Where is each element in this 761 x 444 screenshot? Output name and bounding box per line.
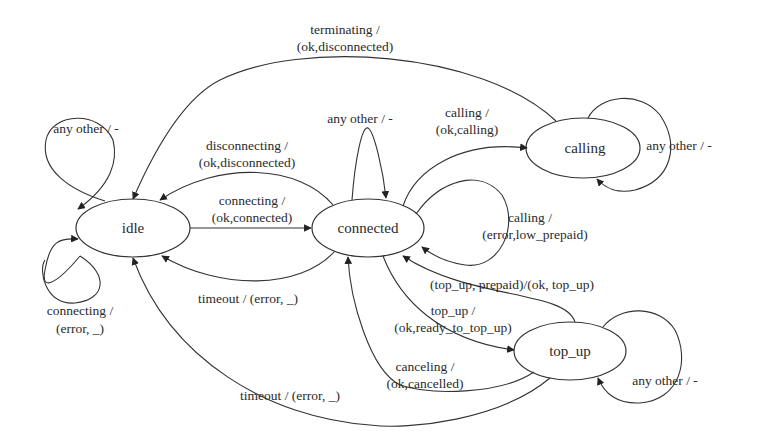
transition-label: connecting / xyxy=(47,303,114,318)
transition-connected-low-prepaid: calling / (error,low_prepaid) xyxy=(416,180,588,265)
transition-connected-to-calling: calling / (ok,calling) xyxy=(403,105,527,206)
state-machine-diagram: idle connected calling top_up any other … xyxy=(0,0,761,444)
state-label: calling xyxy=(565,140,606,156)
state-calling: calling xyxy=(526,118,640,178)
transition-idle-to-connected: connecting / (ok,connected) xyxy=(190,193,311,228)
transition-connected-to-top-up: top_up / (ok,ready_to_top_up) xyxy=(383,256,514,350)
transition-label: any other / - xyxy=(327,111,393,126)
transition-label: any other / - xyxy=(53,121,119,136)
transition-label: any other / - xyxy=(646,138,712,153)
state-top-up: top_up xyxy=(514,322,626,380)
transition-idle-connecting-error: connecting / (error, _) xyxy=(43,239,114,336)
transition-connected-timeout: timeout / (error, _) xyxy=(162,251,335,306)
transition-label: connecting / xyxy=(219,193,286,208)
transition-label: (top_up, prepaid)/(ok, top_up) xyxy=(430,277,594,292)
transition-label: top_up / xyxy=(431,303,476,318)
transition-label: (ok,ready_to_top_up) xyxy=(394,320,511,335)
transition-label: (ok,calling) xyxy=(436,122,499,137)
transition-label: timeout / (error, _) xyxy=(198,291,298,306)
state-label: idle xyxy=(122,220,145,236)
transition-label: any other / - xyxy=(632,373,698,388)
state-label: connected xyxy=(338,220,399,236)
transition-label: canceling / xyxy=(396,359,455,374)
transition-idle-any-other: any other / - xyxy=(45,118,119,209)
transition-label: (error, _) xyxy=(56,321,104,336)
transition-label: terminating / xyxy=(310,22,380,37)
transition-label: (ok,cancelled) xyxy=(387,376,464,391)
transition-label: (ok,disconnected) xyxy=(199,155,295,170)
transition-label: disconnecting / xyxy=(206,138,288,153)
transition-label: (ok,disconnected) xyxy=(297,39,393,54)
state-connected: connected xyxy=(312,199,424,257)
transition-connected-any-other: any other / - xyxy=(327,111,393,200)
state-idle: idle xyxy=(76,199,190,257)
transition-label: calling / xyxy=(508,210,552,225)
transition-label: (ok,connected) xyxy=(212,210,293,225)
transition-label: timeout / (error, _) xyxy=(240,388,340,403)
transition-label: calling / xyxy=(445,105,489,120)
state-label: top_up xyxy=(549,343,591,359)
transition-label: (error,low_prepaid) xyxy=(482,227,588,242)
